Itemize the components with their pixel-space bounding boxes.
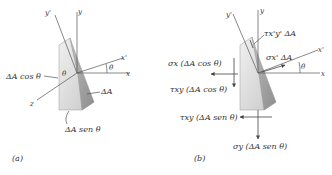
y-prime-label-b: y' [225,11,232,19]
x-prime-label: x' [121,54,127,62]
caption-a: (a) [12,154,23,163]
sigma-x-label: σx (ΔA cos θ) [168,59,222,68]
area-sen-label: ΔA sen θ [64,125,101,134]
sigma-xprime-label: σx' ΔA [266,53,292,62]
tau-xy-bottom-label: τxy (ΔA sen θ) [180,113,238,122]
figure-a: y y' x x' z θ θ ΔA cos θ ΔA ΔA sen θ (a) [5,8,130,163]
z-label: z [29,100,34,108]
y-label-b: y [259,7,265,15]
tau-xy-left-label: τxy (ΔA cos θ) [170,85,227,94]
figure-b: y y' x x' θ σx' ΔA τx'y' ΔA σx (ΔA cos θ… [168,7,325,163]
sigma-y-label: σy (ΔA sen θ) [233,142,287,151]
theta-arc [106,64,107,73]
x-label-b: x [321,70,325,78]
y-prime-label: y' [44,9,51,17]
caption-b: (b) [194,154,205,163]
x-label: x [126,70,130,78]
theta-label: θ [109,64,114,72]
tau-xprime-label: τx'y' ΔA [264,29,296,38]
area-cos-label: ΔA cos θ [5,72,41,81]
y-label: y [77,8,83,16]
theta-label-b: θ [301,63,306,71]
x-prime-label-b: x' [318,46,324,54]
x-prime-axis [77,58,123,73]
sigma-xprime-arrow [262,65,285,72]
area-label: ΔA [100,87,113,96]
stress-element-diagram: y y' x x' z θ θ ΔA cos θ ΔA ΔA sen θ (a)… [0,0,332,175]
